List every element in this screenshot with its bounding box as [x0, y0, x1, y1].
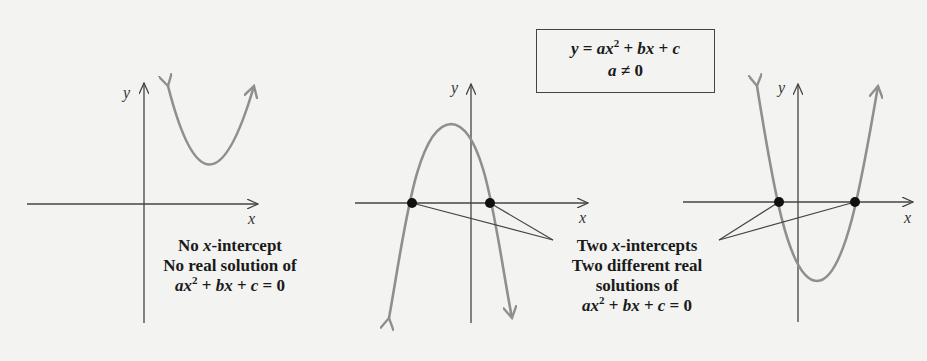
pointer-line	[412, 203, 553, 240]
parabola-up	[757, 86, 878, 281]
x-intercept-point	[850, 197, 860, 207]
x-axis-label: x	[904, 209, 911, 227]
pointer-line	[719, 202, 779, 240]
quadratic-formula-box: y = ax2 + bx + c a ≠ 0	[536, 29, 715, 93]
parabola-up	[168, 86, 254, 165]
y-axis-label: y	[451, 79, 458, 97]
pointer-line	[490, 203, 553, 240]
quadratic-graphs-figure	[0, 0, 927, 361]
caption-no-intercept: No x-intercept No real solution of ax2 +…	[146, 236, 314, 296]
x-intercept-point	[407, 198, 417, 208]
x-axis-label: x	[248, 210, 255, 228]
formula-line-1: y = ax2 + bx + c	[537, 38, 714, 60]
x-axis-label: x	[579, 209, 586, 227]
parabola-down	[389, 124, 512, 318]
y-axis-label: y	[778, 79, 785, 97]
y-axis-label: y	[123, 84, 130, 102]
x-intercept-point	[485, 198, 495, 208]
x-intercept-point	[774, 197, 784, 207]
formula-line-2: a ≠ 0	[537, 60, 714, 82]
caption-two-intercepts: Two x-intercepts Two different real solu…	[553, 236, 721, 316]
